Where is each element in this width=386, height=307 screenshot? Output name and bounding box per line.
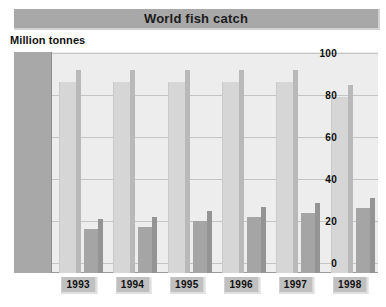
bar-side-shadow: [370, 198, 375, 273]
bar-face: [84, 229, 98, 273]
bar-group-1994: [106, 52, 160, 273]
bar-side-shadow: [76, 70, 81, 273]
bar-series-2-1995[interactable]: [193, 221, 207, 273]
chart-title-band: World fish catch: [14, 9, 380, 30]
bar-series-2-1997[interactable]: [301, 213, 315, 273]
bar-side-shadow: [315, 203, 320, 273]
chart-title: World fish catch: [144, 11, 248, 26]
bar-face: [59, 82, 77, 273]
bar-series-1-1998[interactable]: [331, 97, 348, 273]
bar-face: [222, 82, 240, 273]
bar-series-2-1998[interactable]: [356, 208, 370, 273]
bar-group-1996: [215, 52, 269, 273]
chart-area: 100806040200: [14, 52, 378, 273]
x-tick-label-1993: 1993: [61, 277, 96, 294]
bar-group-1997: [269, 52, 323, 273]
x-axis-labels: 199319941995199619971998: [52, 277, 378, 295]
x-tick-label-1994: 1994: [116, 277, 151, 294]
bar-group-1998: [324, 52, 378, 273]
chart-subtitle-units: Million tonnes: [10, 34, 85, 46]
y-tick-label-80: 80: [325, 90, 337, 101]
y-axis-line: [51, 52, 52, 273]
y-tick-label-100: 100: [319, 48, 337, 59]
bar-series-1-1997[interactable]: [276, 82, 293, 273]
y-tick-label-60: 60: [325, 132, 337, 143]
bar-side-shadow: [261, 207, 266, 273]
bar-side-shadow: [152, 217, 157, 273]
y-tick-label-40: 40: [325, 174, 337, 185]
bar-face: [276, 82, 294, 273]
x-tick-label-1996: 1996: [224, 277, 259, 294]
bar-series-2-1993[interactable]: [84, 229, 98, 273]
bar-face: [247, 217, 261, 273]
bar-face: [113, 82, 131, 273]
bar-side-shadow: [348, 85, 353, 273]
bar-side-shadow: [293, 70, 298, 273]
bar-series-1-1996[interactable]: [222, 82, 239, 273]
bar-face: [301, 213, 315, 273]
bar-side-shadow: [98, 219, 103, 273]
bar-series-1-1993[interactable]: [59, 82, 76, 273]
bar-face: [356, 208, 370, 273]
x-tick-label-1997: 1997: [279, 277, 314, 294]
y-tick-label-0: 0: [331, 258, 337, 269]
bar-face: [193, 221, 207, 273]
bar-series-1-1994[interactable]: [113, 82, 130, 273]
bar-side-shadow: [130, 70, 135, 273]
bar-side-shadow: [185, 70, 190, 273]
bar-series-2-1994[interactable]: [138, 227, 152, 273]
bar-face: [168, 82, 186, 273]
plot-area: [52, 52, 378, 273]
bar-face: [331, 97, 349, 273]
bar-series-2-1996[interactable]: [247, 217, 261, 273]
bar-face: [138, 227, 152, 273]
bar-group-1995: [161, 52, 215, 273]
bar-series-1-1995[interactable]: [168, 82, 185, 273]
bar-group-1993: [52, 52, 106, 273]
y-tick-label-20: 20: [325, 216, 337, 227]
bar-side-shadow: [239, 70, 244, 273]
y-axis-strip: [14, 52, 52, 273]
bar-side-shadow: [207, 211, 212, 273]
x-tick-label-1998: 1998: [333, 277, 368, 294]
x-tick-label-1995: 1995: [170, 277, 205, 294]
